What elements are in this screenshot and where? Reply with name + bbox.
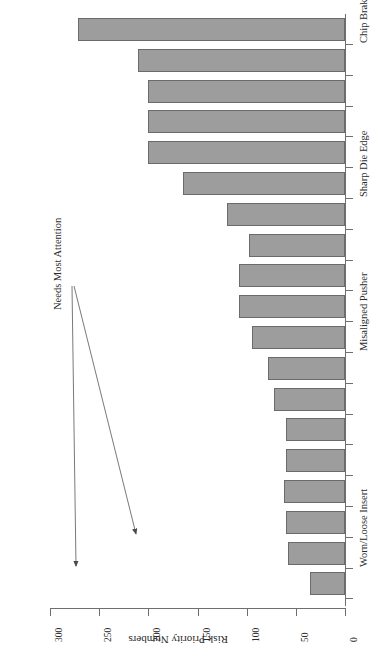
bar bbox=[227, 203, 345, 226]
category-label: Worn/Loose Insert bbox=[358, 488, 369, 566]
bar bbox=[268, 357, 345, 380]
category-tick bbox=[346, 475, 353, 476]
bar bbox=[239, 295, 345, 318]
category-tick bbox=[346, 444, 353, 445]
value-label: 50 bbox=[300, 633, 310, 643]
category-label: Chip Braker Angle Ground Incorrectly bbox=[358, 0, 369, 43]
category-tick bbox=[346, 383, 353, 384]
value-label: 100 bbox=[251, 628, 261, 642]
value-label: 250 bbox=[103, 628, 113, 642]
category-tick bbox=[346, 75, 353, 76]
value-tick bbox=[198, 609, 199, 616]
bar bbox=[183, 172, 345, 195]
category-tick bbox=[346, 290, 353, 291]
value-tick bbox=[247, 609, 248, 616]
bar bbox=[310, 572, 345, 595]
category-tick bbox=[346, 106, 353, 107]
category-tick bbox=[346, 598, 353, 599]
bar bbox=[252, 326, 345, 349]
value-tick bbox=[99, 609, 100, 616]
category-label: Misaligned Pusher bbox=[358, 273, 369, 351]
category-tick bbox=[346, 506, 353, 507]
plot-area: Chip Braker Angle Ground IncorrectlyShar… bbox=[0, 0, 390, 668]
category-tick bbox=[346, 229, 353, 230]
category-label: Sharp Die Edge bbox=[358, 131, 369, 197]
bar bbox=[274, 388, 345, 411]
category-axis-line bbox=[345, 14, 346, 606]
needs-most-attention-annotation: Needs Most Attention bbox=[52, 218, 63, 310]
value-axis-title: Risk Priority Numbers bbox=[128, 634, 228, 646]
bar bbox=[239, 264, 345, 287]
bar bbox=[148, 80, 345, 103]
value-tick bbox=[50, 609, 51, 616]
bar bbox=[148, 110, 345, 133]
bar bbox=[288, 542, 345, 565]
category-tick bbox=[346, 198, 353, 199]
chart-canvas: Chip Braker Angle Ground IncorrectlyShar… bbox=[0, 0, 390, 668]
value-label: 0 bbox=[349, 637, 359, 642]
category-tick bbox=[346, 414, 353, 415]
bar bbox=[138, 49, 345, 72]
bar bbox=[249, 234, 345, 257]
arrow-to-second-bar bbox=[74, 286, 136, 534]
bar bbox=[286, 418, 345, 441]
category-tick bbox=[346, 260, 353, 261]
category-tick bbox=[346, 568, 353, 569]
bar bbox=[284, 480, 345, 503]
category-tick bbox=[346, 537, 353, 538]
category-tick bbox=[346, 321, 353, 322]
value-tick bbox=[296, 609, 297, 616]
value-tick bbox=[345, 609, 346, 616]
value-tick bbox=[148, 609, 149, 616]
category-tick bbox=[346, 167, 353, 168]
category-tick bbox=[346, 136, 353, 137]
category-tick bbox=[346, 352, 353, 353]
arrow-to-top-bar bbox=[72, 286, 76, 566]
bar bbox=[286, 511, 345, 534]
value-label: 300 bbox=[54, 628, 64, 642]
bar bbox=[286, 449, 345, 472]
bar bbox=[148, 141, 345, 164]
category-tick bbox=[346, 44, 353, 45]
bar bbox=[78, 18, 345, 41]
